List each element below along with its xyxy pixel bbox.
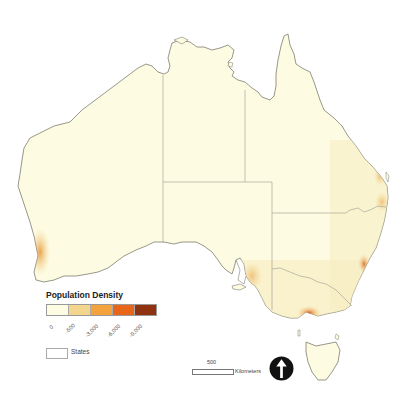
scale-bar (192, 369, 234, 375)
legend-swatch-3 (113, 305, 135, 315)
states-legend-swatch (46, 348, 68, 359)
tasmania (306, 342, 340, 380)
north-arrow-icon (269, 356, 294, 381)
legend-color-ramp (46, 304, 157, 316)
australia-population-density-map (0, 0, 408, 394)
fraser-island (386, 172, 389, 182)
legend-swatch-2 (91, 305, 113, 315)
legend-swatch-4 (135, 305, 156, 315)
scale-bar-unit: Kilometers (235, 368, 261, 374)
king-island (298, 330, 300, 336)
groote-island (228, 62, 233, 67)
legend-swatch-0 (47, 305, 69, 315)
scale-bar-value: 500 (207, 359, 216, 365)
legend-swatch-1 (69, 305, 91, 315)
kangaroo-island (232, 284, 246, 290)
states-legend-label: States (71, 348, 89, 355)
flinders-island (335, 334, 339, 340)
legend-title: Population Density (46, 290, 123, 300)
